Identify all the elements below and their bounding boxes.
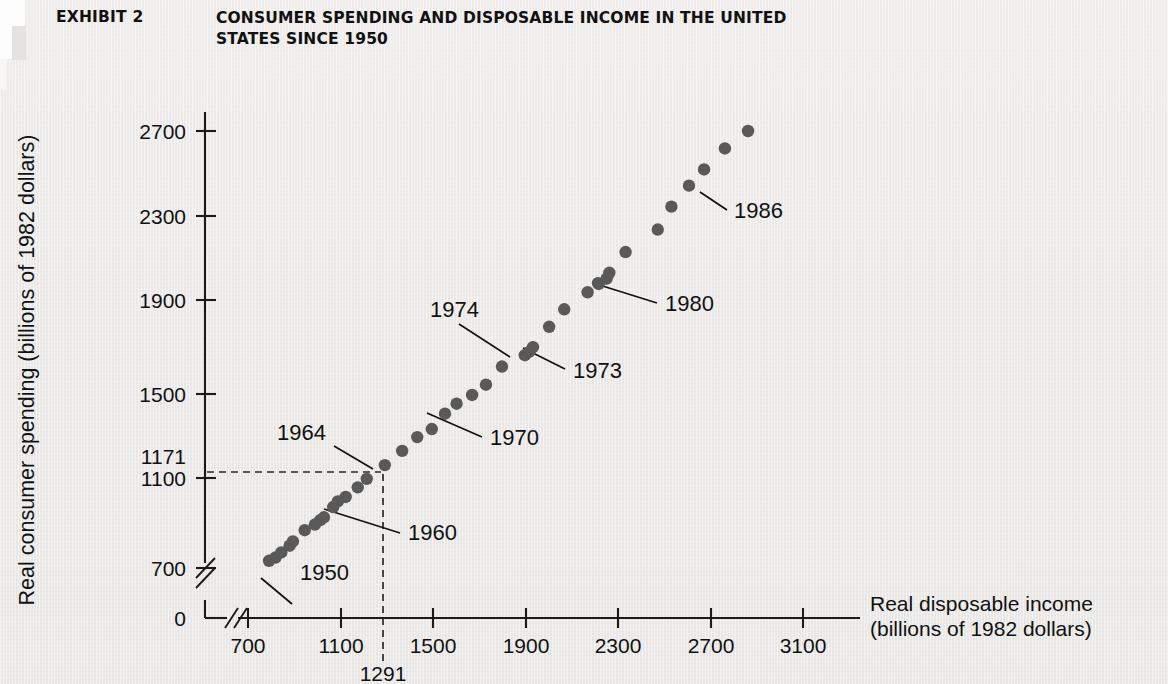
exhibit-page: EXHIBIT 2 CONSUMER SPENDING AND DISPOSAB…	[0, 0, 1168, 684]
data-point	[480, 378, 492, 390]
chart-canvas: Real consumer spending (billions of 1982…	[0, 0, 1168, 684]
x-axis-title-line-1: Real disposable income	[870, 592, 1093, 615]
data-point-layer	[263, 125, 754, 567]
y-highlight-label-1171: 1171	[141, 445, 186, 468]
data-point	[339, 491, 351, 503]
data-point	[698, 163, 710, 175]
data-point	[352, 481, 364, 493]
leader-line-1986	[700, 192, 727, 210]
data-point	[450, 397, 462, 409]
data-point	[652, 223, 664, 235]
data-point	[411, 431, 423, 443]
data-point	[683, 179, 695, 191]
data-point	[466, 389, 478, 401]
y-axis-title: Real consumer spending (billions of 1982…	[15, 135, 39, 606]
data-point	[527, 341, 539, 353]
annotation-label-1970: 1970	[490, 425, 539, 450]
data-point	[396, 445, 408, 457]
data-point	[439, 408, 451, 420]
annotation-label-1964: 1964	[277, 420, 326, 445]
y-tick-label-1100: 1100	[141, 467, 186, 490]
leader-line-1964	[334, 446, 373, 469]
annotation-label-1973: 1973	[573, 358, 622, 383]
x-tick-label-700: 700	[230, 634, 265, 657]
y-origin-label: 0	[174, 607, 186, 630]
annotation-label-1974: 1974	[430, 297, 479, 322]
y-tick-label-1900: 1900	[139, 289, 186, 312]
y-tick-label-1500: 1500	[139, 383, 186, 406]
data-point	[742, 125, 754, 137]
data-point	[719, 142, 731, 154]
data-point	[379, 459, 391, 471]
annotation-label-1986: 1986	[734, 198, 783, 223]
y-tick-label-2300: 2300	[139, 205, 186, 228]
x-tick-label-3100: 3100	[780, 634, 827, 657]
data-point	[318, 511, 330, 523]
data-point	[361, 473, 373, 485]
leader-line-1950	[261, 578, 292, 604]
data-point	[426, 423, 438, 435]
x-highlight-label-1291: 1291	[360, 662, 407, 684]
x-tick-label-1500: 1500	[410, 634, 457, 657]
x-tick-label-1100: 1100	[318, 634, 363, 657]
annotation-label-1980: 1980	[665, 291, 714, 316]
data-point	[287, 535, 299, 547]
data-point	[558, 303, 570, 315]
data-point	[665, 200, 677, 212]
data-point	[543, 321, 555, 333]
x-axis-title-line-2: (billions of 1982 dollars)	[870, 617, 1092, 640]
leader-line-1974	[459, 324, 510, 357]
data-point	[496, 360, 508, 372]
annotation-label-1950: 1950	[300, 560, 349, 585]
x-tick-label-2300: 2300	[595, 634, 642, 657]
y-tick-label-2700: 2700	[139, 120, 186, 143]
data-point	[603, 267, 615, 279]
annotation-label-1960: 1960	[408, 520, 457, 545]
y-tick-label-700: 700	[151, 557, 186, 580]
x-tick-label-2700: 2700	[688, 634, 735, 657]
data-point	[619, 246, 631, 258]
scatter-chart: Real consumer spending (billions of 1982…	[0, 0, 1168, 684]
data-point	[581, 286, 593, 298]
x-tick-label-1900: 1900	[503, 634, 550, 657]
